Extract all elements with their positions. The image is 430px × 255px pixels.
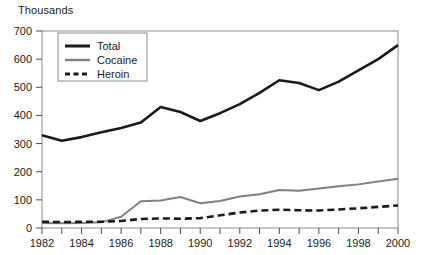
x-axis-tick-labels: 1982198419861988199019921994199619982000 [30,237,410,249]
y-tick-label: 400 [14,109,32,121]
chart-legend: TotalCocaineHeroin [58,33,147,81]
legend-label-heroin: Heroin [97,68,129,80]
x-tick-label: 2000 [386,237,410,249]
y-tick-label: 500 [14,81,32,93]
y-tick-label: 600 [14,53,32,65]
y-axis-ticks [36,31,42,228]
x-tick-label: 1994 [267,237,291,249]
y-axis-tick-labels: 0100200300400500600700 [14,25,32,234]
series-line-heroin [42,205,398,222]
x-tick-label: 1998 [346,237,370,249]
y-tick-label: 0 [26,222,32,234]
x-tick-label: 1982 [30,237,54,249]
y-tick-label: 700 [14,25,32,37]
x-tick-label: 1984 [69,237,93,249]
x-axis-ticks [42,228,398,234]
legend-label-cocaine: Cocaine [97,54,137,66]
chart-container: Thousands 0100200300400500600700 1982198… [0,0,430,255]
y-tick-label: 100 [14,194,32,206]
x-tick-label: 1992 [228,237,252,249]
legend-label-total: Total [97,40,120,52]
y-tick-label: 200 [14,166,32,178]
line-chart-svg: 0100200300400500600700 19821984198619881… [0,0,430,255]
x-tick-label: 1988 [148,237,172,249]
x-tick-label: 1996 [307,237,331,249]
y-tick-label: 300 [14,138,32,150]
x-tick-label: 1990 [188,237,212,249]
x-tick-label: 1986 [109,237,133,249]
